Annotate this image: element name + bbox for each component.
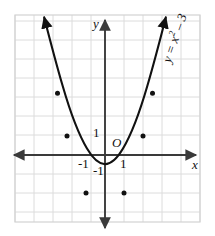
y-axis-label: y — [93, 17, 99, 30]
x-axis-label: x — [192, 158, 198, 171]
y-tick-label-neg1: -1 — [93, 164, 104, 177]
origin-label: O — [112, 136, 121, 149]
y-tick-label-1: 1 — [93, 126, 100, 139]
x-tick-label-neg1: -1 — [78, 157, 89, 170]
parabola-figure: y x O 1 -1 -1 1 y = x2 – 3 — [0, 0, 215, 236]
x-tick-label-1: 1 — [120, 157, 127, 170]
